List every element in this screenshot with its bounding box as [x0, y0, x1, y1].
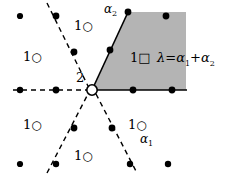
lattice-dot: [17, 13, 23, 19]
lattice-dot: [71, 125, 78, 132]
equation-term1: α: [176, 50, 185, 65]
weight-marker-left-lower: 1○: [23, 118, 42, 131]
lattice-dot: [130, 87, 137, 94]
lambda-symbol: λ: [157, 50, 165, 65]
open-circle-icon: ○: [82, 149, 92, 163]
lattice-dot: [109, 125, 116, 132]
equation-term2: α: [201, 50, 210, 65]
weight-marker-lower: 1○: [74, 149, 93, 162]
lattice-dot: [107, 47, 114, 54]
lattice-dot: [53, 161, 59, 167]
lattice-dot: [53, 13, 60, 20]
equation-term2-subscript: 2: [210, 59, 215, 68]
lattice-dot: [125, 9, 132, 16]
lattice-dot: [17, 87, 23, 93]
weight-marker-upper-left: 1○: [74, 19, 93, 32]
lattice-dot: [127, 161, 133, 167]
open-circle-icon: ○: [136, 118, 146, 132]
figure-canvas: [0, 0, 240, 174]
open-square-icon: □: [138, 50, 150, 65]
alpha2-symbol: α: [104, 2, 112, 16]
lattice-dot: [163, 13, 170, 20]
alpha2-subscript: 2: [112, 9, 117, 18]
alpha1-subscript: 1: [148, 139, 153, 148]
weight-marker-left-upper: 1○: [23, 50, 42, 63]
open-circle-icon: ○: [31, 118, 41, 132]
plus-sign: +: [190, 50, 201, 65]
weight-marker-lower-right: 1○: [128, 118, 147, 131]
lattice-dot: [165, 161, 171, 167]
open-circle-icon: ○: [31, 50, 41, 64]
weight-marker-in-cone: 1□: [130, 51, 151, 64]
lambda-equation: λ=α1+α2: [157, 51, 215, 68]
origin-open-circle: [87, 85, 97, 95]
alpha1-symbol: α: [140, 132, 148, 146]
open-circle-icon: ○: [82, 19, 92, 33]
equals-sign: =: [165, 50, 176, 65]
lattice-dot: [71, 49, 78, 56]
lattice-dot: [169, 87, 176, 94]
alpha2-label: α2: [104, 3, 117, 18]
alpha1-label: α1: [140, 133, 153, 148]
lattice-dot: [53, 87, 60, 94]
lattice-dot: [17, 161, 23, 167]
origin-multiplicity-label: 2: [76, 71, 84, 84]
root-system-figure: 2 1○ 1○ 1○ 1○ 1○ 1□ α2 α1 λ=α1+α2: [0, 0, 240, 174]
